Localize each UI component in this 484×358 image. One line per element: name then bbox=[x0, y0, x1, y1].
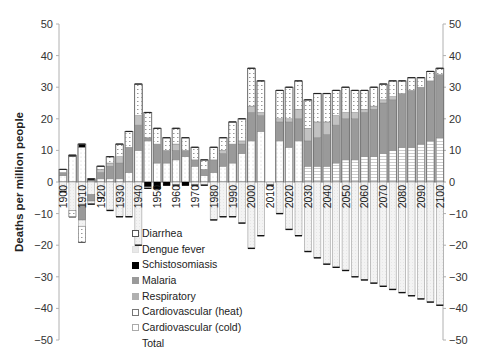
diarrhea-segment bbox=[304, 100, 311, 128]
respiratory-segment bbox=[333, 125, 340, 163]
left-tick-label: −50 bbox=[34, 334, 53, 346]
legend-label: Schistosomiasis bbox=[142, 257, 217, 273]
x-tick-label: 1960 bbox=[170, 185, 182, 209]
cardiovascular-heat--segment bbox=[380, 154, 387, 182]
respiratory-segment bbox=[408, 90, 415, 147]
cardiovascular-heat--segment bbox=[60, 176, 67, 182]
diarrhea-segment bbox=[380, 84, 387, 100]
respiratory-segment bbox=[417, 87, 424, 144]
cardiovascular-heat--segment bbox=[144, 141, 151, 182]
x-tick-label: 1930 bbox=[114, 185, 126, 209]
right-tick-label: −40 bbox=[449, 302, 468, 314]
cardiovascular-heat--segment bbox=[78, 147, 85, 182]
respiratory-segment bbox=[163, 150, 170, 163]
malaria-segment bbox=[361, 109, 368, 112]
respiratory-segment bbox=[144, 138, 151, 141]
left-tick-label: −40 bbox=[34, 302, 53, 314]
diarrhea-segment bbox=[427, 71, 434, 80]
respiratory-segment bbox=[116, 163, 123, 179]
malaria-segment bbox=[370, 106, 377, 109]
malaria-segment bbox=[333, 116, 340, 125]
legend-label: Total bbox=[142, 336, 164, 352]
malaria-segment bbox=[173, 144, 180, 150]
legend-label: Diarrhea bbox=[142, 226, 182, 242]
cardiovascular-heat--segment bbox=[107, 179, 114, 182]
bar-2045 bbox=[332, 90, 340, 267]
legend-label: Cardiovascular (cold) bbox=[142, 320, 241, 336]
bar-2040 bbox=[323, 94, 331, 265]
cardiovascular-heat--segment bbox=[257, 131, 264, 182]
malaria-segment bbox=[220, 150, 227, 153]
diarrhea-segment bbox=[107, 157, 114, 163]
respiratory-segment bbox=[370, 109, 377, 156]
cardiovascular-heat--segment bbox=[427, 141, 434, 182]
x-tick-label: 1910 bbox=[76, 185, 88, 209]
diarrhea-segment bbox=[229, 122, 236, 144]
diarrhea-segment bbox=[191, 147, 198, 160]
legend-item-respiratory: Respiratory bbox=[132, 289, 242, 305]
bar-2005 bbox=[257, 81, 265, 236]
diarrhea-segment bbox=[436, 68, 443, 74]
left-tick-label: 0 bbox=[47, 176, 53, 188]
cardiovascular-heat--segment bbox=[286, 147, 293, 182]
respiratory-segment bbox=[276, 122, 283, 141]
respiratory-segment bbox=[182, 150, 189, 156]
diarrhea-segment bbox=[323, 94, 330, 122]
diarrhea-segment bbox=[135, 84, 142, 116]
diarrhea-segment bbox=[238, 119, 245, 141]
legend-item-schistosomiasis: Schistosomiasis bbox=[132, 257, 242, 273]
respiratory-segment bbox=[107, 166, 114, 179]
cardiovascular-heat--segment bbox=[69, 157, 76, 182]
diarrhea-segment bbox=[154, 128, 161, 144]
respiratory-segment bbox=[97, 173, 104, 179]
cardiovascular-heat--segment bbox=[220, 166, 227, 182]
x-tick-label: 2010 bbox=[264, 185, 276, 209]
diarrhea-segment bbox=[257, 81, 264, 113]
respiratory-segment bbox=[125, 147, 132, 172]
right-tick-label: 50 bbox=[449, 18, 461, 30]
left-tick-label: 20 bbox=[41, 113, 53, 125]
bar-1955 bbox=[163, 138, 171, 185]
diarrhea-segment bbox=[314, 94, 321, 122]
cardiovascular-heat--segment bbox=[191, 166, 198, 182]
diarrhea-segment bbox=[144, 112, 151, 137]
left-tick-label: 40 bbox=[41, 50, 53, 62]
cardiovascular-heat--segment bbox=[182, 157, 189, 182]
cardiovascular-heat--segment bbox=[389, 150, 396, 182]
respiratory-segment bbox=[436, 75, 443, 138]
cardiovascular-heat--segment bbox=[417, 144, 424, 182]
respiratory-segment bbox=[295, 119, 302, 141]
malaria-segment bbox=[248, 106, 255, 112]
bar-2035 bbox=[313, 94, 321, 258]
bar-1945 bbox=[144, 112, 152, 188]
x-tick-label: 2100 bbox=[434, 185, 446, 209]
respiratory-segment bbox=[361, 112, 368, 156]
bar-1975 bbox=[200, 160, 208, 185]
cardiovascular-heat--segment bbox=[408, 147, 415, 182]
legend-swatch-icon bbox=[132, 293, 139, 300]
cardiovascular-heat--segment bbox=[333, 163, 340, 182]
x-tick-label: 2000 bbox=[245, 185, 257, 209]
cardiovascular-heat--segment bbox=[154, 163, 161, 182]
diarrhea-segment bbox=[370, 87, 377, 106]
diarrhea-segment bbox=[352, 90, 359, 112]
malaria-segment bbox=[135, 116, 142, 125]
cardiovascular-heat--segment bbox=[323, 166, 330, 182]
malaria-segment bbox=[342, 112, 349, 118]
legend-swatch-icon bbox=[132, 309, 139, 316]
diarrhea-segment bbox=[182, 138, 189, 151]
respiratory-segment bbox=[238, 144, 245, 153]
cardiovascular-heat--segment bbox=[295, 141, 302, 182]
respiratory-segment bbox=[173, 150, 180, 159]
cardiovascular-heat--segment bbox=[201, 176, 208, 182]
legend-label: Cardiovascular (heat) bbox=[142, 304, 242, 320]
respiratory-segment bbox=[304, 141, 311, 166]
bar-2025 bbox=[295, 81, 303, 236]
x-tick-label: 1980 bbox=[208, 185, 220, 209]
legend-swatch-icon bbox=[132, 324, 139, 331]
bar-1970 bbox=[191, 147, 199, 185]
left-tick-label: −20 bbox=[34, 239, 53, 251]
cardiovascular-heat--segment bbox=[125, 173, 132, 182]
legend-label: Respiratory bbox=[142, 289, 196, 305]
left-tick-label: 10 bbox=[41, 144, 53, 156]
